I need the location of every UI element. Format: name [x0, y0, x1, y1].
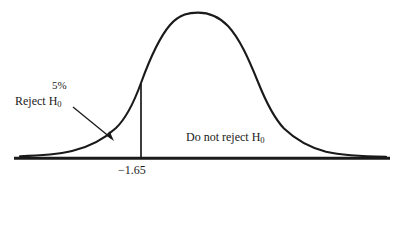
x-axis-tick-label-text: −1.65: [118, 163, 146, 177]
acceptance-region-label: Do not reject H0: [186, 131, 265, 145]
reject-region-label-subscript: 0: [57, 99, 61, 109]
acceptance-region-label-text: Do not reject H: [186, 130, 260, 144]
reject-region-pointer-line: [73, 107, 111, 138]
percent-label: 5%: [52, 80, 67, 91]
acceptance-region-label-subscript: 0: [260, 135, 264, 145]
percent-label-text: 5%: [52, 79, 67, 91]
reject-region-pointer-arrowhead: [106, 131, 114, 141]
reject-region-label: Reject H0: [15, 95, 62, 109]
x-axis-tick-label: −1.65: [118, 164, 146, 176]
reject-region-label-text: Reject H: [15, 94, 57, 108]
